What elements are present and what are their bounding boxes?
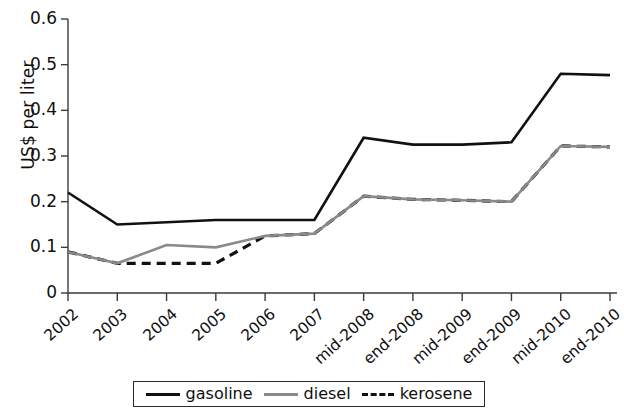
legend-item-kerosene: kerosene [362, 386, 473, 402]
legend-swatch-diesel-icon [264, 393, 298, 396]
legend-item-gasoline: gasoline [146, 386, 253, 402]
series-lines [68, 74, 610, 264]
legend-swatch-gasoline-icon [146, 393, 180, 396]
series-line-kerosene [68, 146, 610, 263]
series-line-diesel [68, 146, 610, 263]
legend-item-diesel: diesel [264, 386, 351, 402]
series-line-gasoline [68, 74, 610, 225]
legend-label-kerosene: kerosene [400, 386, 473, 402]
legend-swatch-kerosene-icon [362, 393, 394, 396]
legend-label-diesel: diesel [304, 386, 351, 402]
legend-label-gasoline: gasoline [186, 386, 253, 402]
tick-marks [61, 19, 610, 301]
chart-legend: gasoline diesel kerosene [133, 381, 485, 407]
